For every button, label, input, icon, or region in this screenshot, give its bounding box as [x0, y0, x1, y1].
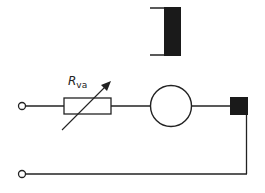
field-winding-bracket [150, 7, 181, 56]
circuit-diagram: Rva [0, 0, 265, 193]
resistor-label: Rva [68, 74, 87, 90]
machine-symbol [151, 86, 192, 127]
terminal-bottom-icon [19, 171, 26, 178]
winding-block [230, 97, 248, 115]
terminal-top-icon [19, 103, 26, 110]
